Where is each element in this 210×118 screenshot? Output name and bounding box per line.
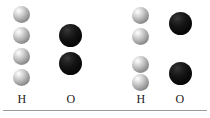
oxygen-sphere [169,62,192,85]
sample-group-left: H O [0,0,105,118]
oxygen-sphere [169,12,192,35]
horizontal-rule [3,110,207,111]
oxygen-sphere [59,24,82,47]
hydrogen-sphere [13,27,30,44]
hydrogen-sphere [132,56,149,73]
atom-label-hydrogen: H [10,92,34,106]
hydrogen-sphere [13,6,30,23]
sample-group-right: H O [105,0,210,118]
hydrogen-sphere [132,74,149,91]
hydrogen-sphere [13,48,30,65]
atom-label-oxygen: O [168,92,192,106]
atom-label-oxygen: O [59,92,83,106]
molecule-ratio-figure: H O H O [0,0,210,118]
oxygen-sphere [59,52,82,75]
hydrogen-sphere [132,7,149,24]
hydrogen-sphere [13,69,30,86]
atom-label-hydrogen: H [129,92,153,106]
hydrogen-sphere [132,28,149,45]
